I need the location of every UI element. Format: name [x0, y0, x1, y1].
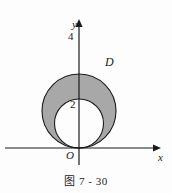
x-axis-label: x: [158, 152, 163, 163]
y-tick-label-4: 4: [68, 31, 74, 42]
x-axis-group: [5, 144, 161, 151]
figure-container: y x 4 2 D O 图 7 - 30: [0, 0, 172, 193]
figure-caption: 图 7 - 30: [0, 172, 172, 188]
y-tick-label-2: 2: [70, 99, 76, 110]
region-label-d: D: [105, 56, 114, 68]
origin-label: O: [66, 150, 74, 161]
figure-diagram: [0, 0, 172, 193]
y-axis-label: y: [72, 19, 77, 30]
